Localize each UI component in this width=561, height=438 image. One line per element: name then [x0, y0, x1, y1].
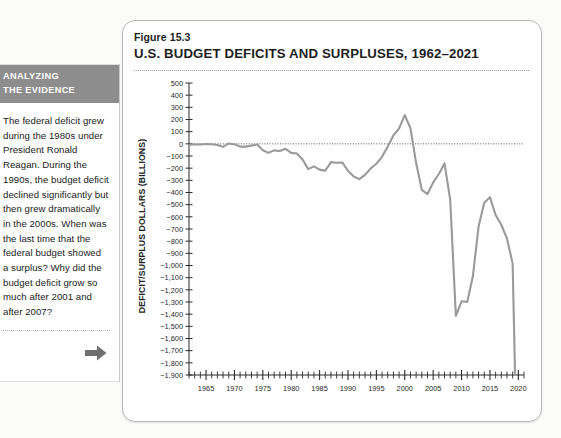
svg-text:−1,300: −1,300 [160, 298, 183, 307]
chart-area: DEFICIT/SURPLUS DOLLARS (BILLIONS) 50040… [134, 77, 530, 407]
sidebar-header-line2: THE EVIDENCE [3, 84, 111, 98]
svg-text:1965: 1965 [198, 384, 214, 393]
svg-text:−900: −900 [166, 249, 183, 258]
sidebar-header: ANALYZING THE EVIDENCE [0, 65, 119, 103]
svg-text:300: 300 [171, 103, 183, 112]
sidebar-arrow-container [0, 331, 119, 375]
svg-text:−1,500: −1,500 [160, 322, 183, 331]
svg-text:0: 0 [179, 140, 183, 149]
svg-text:1985: 1985 [311, 384, 327, 393]
sidebar-header-line1: ANALYZING [3, 70, 111, 84]
svg-text:100: 100 [171, 127, 183, 136]
arrow-right-icon[interactable] [85, 345, 107, 361]
svg-text:−400: −400 [166, 188, 183, 197]
budget-deficit-line-chart: 5004003002001000−100−200−300−400−500−600… [134, 77, 530, 407]
svg-text:−1,600: −1,600 [160, 334, 183, 343]
svg-text:−100: −100 [166, 152, 183, 161]
svg-text:−1,100: −1,100 [160, 273, 183, 282]
svg-text:2010: 2010 [453, 384, 469, 393]
svg-text:−500: −500 [166, 200, 183, 209]
svg-text:2000: 2000 [397, 384, 413, 393]
svg-text:−700: −700 [166, 225, 183, 234]
page-root: ANALYZING THE EVIDENCE The federal defic… [0, 0, 561, 438]
sidebar-body-text: The federal deficit grew during the 1980… [0, 103, 119, 328]
figure-card: Figure 15.3 U.S. BUDGET DEFICITS AND SUR… [122, 20, 542, 422]
svg-text:500: 500 [171, 79, 183, 88]
figure-title: U.S. BUDGET DEFICITS AND SURPLUSES, 1962… [134, 46, 529, 61]
svg-text:−1,200: −1,200 [160, 286, 183, 295]
figure-number: Figure 15.3 [134, 31, 529, 43]
svg-text:−200: −200 [166, 164, 183, 173]
svg-text:1980: 1980 [283, 384, 299, 393]
svg-text:1970: 1970 [226, 384, 242, 393]
svg-text:2005: 2005 [425, 384, 441, 393]
svg-text:2015: 2015 [482, 384, 498, 393]
svg-text:−1,700: −1,700 [160, 346, 183, 355]
svg-text:−1,900: −1,900 [160, 371, 183, 380]
svg-text:−1,400: −1,400 [160, 310, 183, 319]
figure-divider [134, 70, 529, 71]
svg-text:−1,800: −1,800 [160, 359, 183, 368]
svg-text:400: 400 [171, 91, 183, 100]
svg-text:200: 200 [171, 115, 183, 124]
svg-text:−300: −300 [166, 176, 183, 185]
svg-text:−1,000: −1,000 [160, 261, 183, 270]
svg-text:2020: 2020 [510, 384, 526, 393]
svg-text:−600: −600 [166, 213, 183, 222]
svg-text:−800: −800 [166, 237, 183, 246]
svg-text:1975: 1975 [255, 384, 271, 393]
svg-text:1995: 1995 [368, 384, 384, 393]
svg-text:1990: 1990 [340, 384, 356, 393]
analyzing-the-evidence-panel: ANALYZING THE EVIDENCE The federal defic… [0, 64, 120, 382]
